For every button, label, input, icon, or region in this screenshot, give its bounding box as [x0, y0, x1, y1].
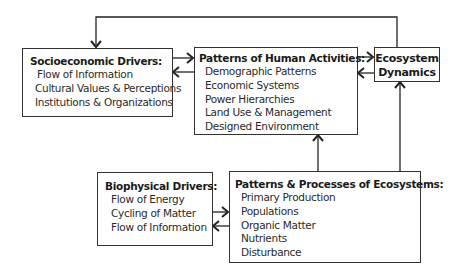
ecosystems-item: Organic Matter — [235, 219, 420, 233]
socioeconomic-drivers-box: Socioeconomic Drivers: Flow of Informati… — [22, 48, 173, 117]
human-activities-item: Power Hierarchies — [199, 93, 357, 107]
ecosystems-item: Primary Production — [235, 191, 420, 205]
ecosystem-dynamics-title-line2: Dynamics — [375, 66, 439, 80]
human-activities-title: Patterns of Human Activities: — [199, 52, 357, 65]
human-activities-item: Land Use & Management — [199, 106, 357, 120]
biophysical-item: Flow of Energy — [105, 193, 212, 207]
biophysical-item: Cycling of Matter — [105, 207, 212, 221]
ecosystems-title: Patterns & Processes of Ecosystems: — [235, 178, 420, 191]
human-activities-item: Designed Environment — [199, 120, 357, 134]
biophysical-item: Flow of Information — [105, 221, 212, 235]
socioeconomic-item: Flow of Information — [30, 68, 172, 82]
human-activities-item: Economic Systems — [199, 79, 357, 93]
human-activities-box: Patterns of Human Activities: Demographi… — [194, 47, 358, 135]
human-activities-item: Demographic Patterns — [199, 65, 357, 79]
ecosystems-item: Populations — [235, 205, 420, 219]
ecosystems-item: Disturbance — [235, 246, 420, 260]
feedback-line-ecosystem-to-socioeconomic — [96, 17, 397, 47]
ecosystem-dynamics-box: Ecosystem Dynamics — [374, 47, 440, 82]
socioeconomic-item: Institutions & Organizations — [30, 96, 172, 110]
socioeconomic-title: Socioeconomic Drivers: — [30, 55, 172, 68]
ecosystems-box: Patterns & Processes of Ecosystems: Prim… — [229, 171, 421, 263]
ecosystem-dynamics-title-line1: Ecosystem — [375, 52, 439, 66]
biophysical-title: Biophysical Drivers: — [105, 180, 212, 193]
socioeconomic-item: Cultural Values & Perceptions — [30, 82, 172, 96]
biophysical-drivers-box: Biophysical Drivers: Flow of Energy Cycl… — [97, 172, 213, 246]
ecosystems-item: Nutrients — [235, 232, 420, 246]
